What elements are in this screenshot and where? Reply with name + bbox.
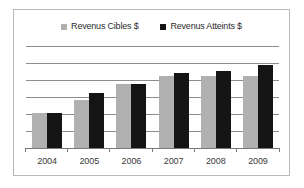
bar-group-2004 (26, 46, 68, 148)
bar-atteints-2008[interactable] (216, 71, 231, 148)
legend-entry-revenus-atteints: Revenus Atteints $ (160, 22, 241, 31)
tick-mark-2006 (109, 148, 110, 152)
bar-atteints-2009[interactable] (258, 65, 273, 148)
x-axis-label-2007: 2007 (153, 156, 195, 166)
tick-mark-2008 (194, 148, 195, 152)
bar-group-2008 (195, 46, 237, 148)
tick-mark-end (279, 148, 280, 152)
bar-atteints-2006[interactable] (131, 84, 146, 148)
x-axis-label-2008: 2008 (195, 156, 237, 166)
x-axis-label-2004: 2004 (26, 156, 68, 166)
tick-cell-2009 (237, 148, 279, 153)
bar-group-2007 (153, 46, 195, 148)
bar-atteints-2007[interactable] (174, 73, 189, 148)
bar-atteints-2004[interactable] (47, 113, 62, 148)
tick-cell-2006 (110, 148, 152, 153)
chart-legend: Revenus Cibles $ Revenus Atteints $ (14, 22, 289, 31)
tick-cell-2008 (195, 148, 237, 153)
legend-swatch-black-square (160, 24, 166, 30)
bar-cibles-2007[interactable] (159, 76, 174, 148)
chart-frame: Revenus Cibles $ Revenus Atteints $ 2004… (13, 9, 290, 176)
bar-series-container (26, 46, 279, 148)
x-axis-label-2005: 2005 (68, 156, 110, 166)
x-axis-label-2006: 2006 (110, 156, 152, 166)
tick-mark-2005 (67, 148, 68, 152)
bar-cibles-2004[interactable] (32, 113, 47, 148)
tick-mark-2007 (152, 148, 153, 152)
tick-mark-2009 (236, 148, 237, 152)
bar-group-2009 (237, 46, 279, 148)
x-axis-labels: 200420052006200720082009 (26, 156, 279, 166)
bar-group-2005 (68, 46, 110, 148)
legend-swatch-gray-square (61, 24, 67, 30)
tick-mark-2004 (25, 148, 26, 152)
tick-cell-2004 (26, 148, 68, 153)
tick-cell-2007 (153, 148, 195, 153)
x-axis-label-2009: 2009 (237, 156, 279, 166)
bar-group-2006 (110, 46, 152, 148)
legend-label-revenus-atteints: Revenus Atteints $ (170, 22, 241, 31)
bar-cibles-2005[interactable] (74, 100, 89, 148)
bar-cibles-2008[interactable] (201, 76, 216, 148)
bar-atteints-2005[interactable] (89, 93, 104, 148)
bar-cibles-2009[interactable] (243, 76, 258, 148)
legend-entry-revenus-cibles: Revenus Cibles $ (61, 22, 138, 31)
legend-label-revenus-cibles: Revenus Cibles $ (71, 22, 138, 31)
x-axis-ticks (26, 148, 279, 153)
tick-cell-2005 (68, 148, 110, 153)
bar-cibles-2006[interactable] (116, 84, 131, 148)
plot-area (26, 46, 279, 148)
